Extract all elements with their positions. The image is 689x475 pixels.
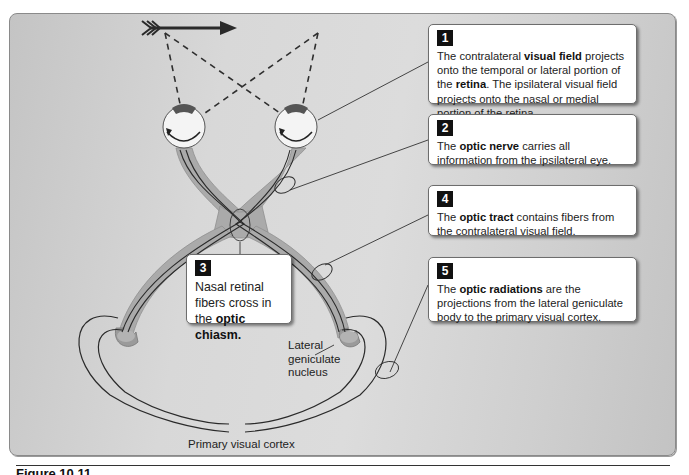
callout-text: The optic radiations are the projections… bbox=[437, 282, 628, 325]
callout-3: 3 Nasal retinal fibers cross in the opti… bbox=[186, 254, 292, 324]
callout-number: 5 bbox=[437, 263, 453, 279]
text-part: The bbox=[437, 140, 459, 152]
figure-caption: Figure 10.11 bbox=[16, 467, 91, 475]
lgn-label: Lateral geniculate nucleus bbox=[288, 339, 348, 380]
arrow-fletching-icon bbox=[142, 21, 160, 35]
text-part-bold: retina bbox=[456, 78, 486, 90]
callout-4: 4 The optic tract contains fibers from t… bbox=[428, 185, 637, 236]
callout-2: 2 The optic nerve carries all informatio… bbox=[428, 114, 637, 165]
callout-text: The contralateral visual field projects … bbox=[437, 49, 628, 120]
text-part-bold: optic radiations bbox=[459, 283, 542, 295]
caption-rule bbox=[16, 465, 670, 466]
text-part: The contralateral bbox=[437, 50, 524, 62]
callout-number: 4 bbox=[437, 191, 453, 207]
text-part: The bbox=[437, 211, 459, 223]
callout-number: 2 bbox=[437, 120, 453, 136]
text-part-bold: visual field bbox=[524, 50, 582, 62]
callout-1: 1 The contralateral visual field project… bbox=[428, 24, 637, 104]
callout-text: Nasal retinal fibers cross in the optic … bbox=[195, 279, 283, 343]
arrow-head-icon bbox=[220, 21, 237, 35]
left-eye-icon bbox=[163, 104, 205, 148]
cortex-label: Primary visual cortex bbox=[188, 438, 295, 452]
callout-text: The optic nerve carries all information … bbox=[437, 139, 628, 167]
callout-5: 5 The optic radiations are the projectio… bbox=[428, 257, 637, 322]
callout-number: 3 bbox=[195, 260, 211, 276]
text-part: The bbox=[437, 283, 459, 295]
callout-text: The optic tract contains fibers from the… bbox=[437, 210, 628, 238]
callout-number: 1 bbox=[437, 30, 453, 46]
right-eye-icon bbox=[275, 104, 317, 148]
text-part-bold: optic nerve bbox=[459, 140, 519, 152]
text-part-bold: optic tract bbox=[459, 211, 513, 223]
visual-field-arrow bbox=[142, 21, 237, 35]
